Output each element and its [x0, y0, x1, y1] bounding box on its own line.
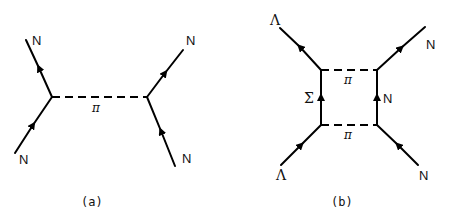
label-upper-left: N: [32, 33, 41, 48]
diagram-b: Λ Λ N N Σ N π π (b): [269, 12, 435, 209]
fermion-line-upper-right: [147, 50, 183, 97]
feynman-diagrams: N N N N π (a) Λ Λ N N Σ N π π (b): [0, 0, 449, 218]
caption-a: (a): [81, 195, 103, 209]
label-n-upper-right: N: [426, 37, 435, 52]
label-pion: π: [91, 101, 101, 115]
lambda-line-upper-left: [280, 28, 321, 70]
diagram-a: N N N N π (a): [15, 33, 195, 209]
nucleon-line-lower-right: [377, 125, 418, 165]
label-lambda-upper: Λ: [269, 12, 281, 28]
label-lower-left: N: [19, 152, 28, 167]
caption-b: (b): [331, 195, 353, 209]
fermion-line-lower-right: [147, 97, 175, 166]
label-n-internal: N: [383, 91, 392, 106]
fermion-line-upper-left: [26, 40, 52, 97]
label-lower-right: N: [182, 151, 191, 166]
label-lambda-lower: Λ: [275, 167, 287, 183]
nucleon-line-upper-right: [377, 27, 425, 70]
lambda-line-lower-left: [281, 125, 321, 165]
label-n-lower-right: N: [419, 168, 428, 183]
fermion-line-lower-left: [15, 97, 52, 153]
label-sigma: Σ: [304, 90, 314, 106]
label-upper-right: N: [186, 33, 195, 48]
label-pion-bottom: π: [343, 128, 353, 142]
label-pion-top: π: [343, 73, 353, 87]
